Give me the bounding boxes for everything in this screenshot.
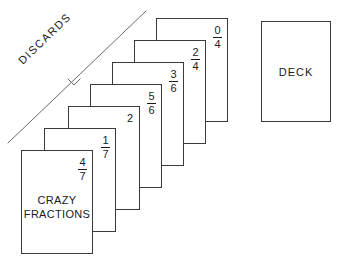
discard-card-4-7-title[interactable]: 4 7 CRAZY FRACTIONS	[21, 150, 93, 254]
fraction-numerator: 3	[169, 69, 177, 81]
fraction-numerator: 4	[78, 157, 86, 169]
fraction-numerator: 2	[191, 47, 199, 59]
fraction-numerator: 2	[126, 113, 134, 125]
card-fraction: 2 4	[191, 47, 200, 72]
card-fraction: 3 6	[169, 69, 178, 94]
fraction-denominator: 6	[147, 104, 155, 116]
deck-label: DECK	[262, 66, 330, 78]
card-fraction: 4 7	[78, 157, 87, 182]
fraction-numerator: 5	[147, 91, 155, 103]
fraction-numerator: 0	[213, 25, 221, 37]
fraction-denominator: 7	[78, 170, 86, 182]
card-fraction: 5 6	[147, 91, 156, 116]
fraction-numerator: 1	[101, 135, 109, 147]
card-fraction: 2	[126, 113, 134, 125]
fraction-denominator: 4	[191, 60, 199, 72]
fraction-denominator: 7	[101, 148, 109, 160]
card-fraction: 1 7	[101, 135, 110, 160]
deck-pile[interactable]: DECK	[261, 21, 331, 122]
discards-label: DISCARDS	[16, 10, 73, 66]
game-title: CRAZY FRACTIONS	[22, 194, 92, 222]
fraction-denominator: 4	[213, 38, 221, 50]
game-title-line-1: CRAZY	[22, 194, 92, 208]
fraction-denominator: 6	[169, 82, 177, 94]
crazy-fractions-diagram: DISCARDS 0 4 2 4 3 6 5 6	[0, 0, 339, 267]
card-fraction: 0 4	[213, 25, 222, 50]
game-title-line-2: FRACTIONS	[22, 208, 92, 222]
